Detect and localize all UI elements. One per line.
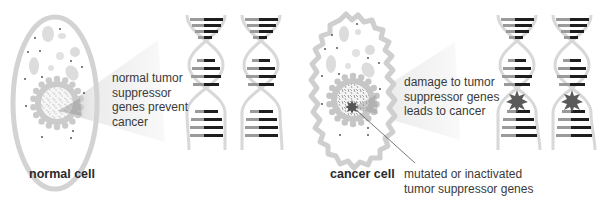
dna-helix xyxy=(242,15,282,150)
organelle xyxy=(70,47,80,57)
callout-line: leads to cancer xyxy=(404,104,499,119)
dna-pair-damaged xyxy=(498,15,595,150)
pointer-label-mutated-genes: mutated or inactivated tumor suppressor … xyxy=(404,167,533,196)
organelle xyxy=(29,57,39,75)
organelle xyxy=(42,26,54,42)
caption-cancer-cell: cancer cell xyxy=(330,167,395,181)
pointer-line-text: mutated or inactivated xyxy=(404,167,533,182)
organelle xyxy=(56,52,64,60)
caption-normal-cell: normal cell xyxy=(29,167,95,181)
callout-line: cancer xyxy=(112,115,188,130)
dna-helix xyxy=(498,15,540,150)
callout-line: normal tumor xyxy=(112,71,188,86)
mutation-star-icon xyxy=(345,100,359,114)
organelle xyxy=(48,65,54,71)
callout-line: suppressor genes xyxy=(404,90,499,105)
dna-helix xyxy=(553,15,595,150)
organelle xyxy=(58,33,66,39)
pointer-line-text: tumor suppressor genes xyxy=(404,182,533,197)
callout-line: genes prevent xyxy=(112,100,188,115)
callout-line: damage to tumor xyxy=(404,75,499,90)
dna-helix xyxy=(187,15,225,150)
callout-line: suppressor xyxy=(112,86,188,101)
callout-normal-genes: normal tumor suppressor genes prevent ca… xyxy=(112,71,188,129)
callout-damaged-genes: damage to tumor suppressor genes leads t… xyxy=(404,75,499,119)
dna-pair-normal xyxy=(187,15,282,150)
